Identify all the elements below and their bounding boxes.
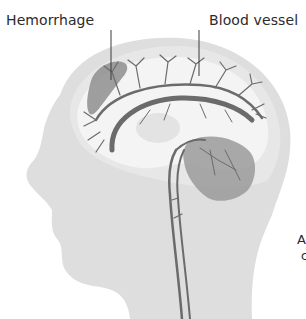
caption-fragment-2: c bbox=[301, 249, 306, 263]
blood-vessel-label: Blood vessel bbox=[209, 12, 298, 28]
diagram-stage: Hemorrhage Blood vessel A c bbox=[0, 0, 306, 319]
head-brain-illustration bbox=[0, 0, 306, 319]
caption-fragment-1: A bbox=[297, 232, 306, 247]
hemorrhage-label: Hemorrhage bbox=[6, 12, 94, 28]
thalamus bbox=[136, 113, 180, 143]
